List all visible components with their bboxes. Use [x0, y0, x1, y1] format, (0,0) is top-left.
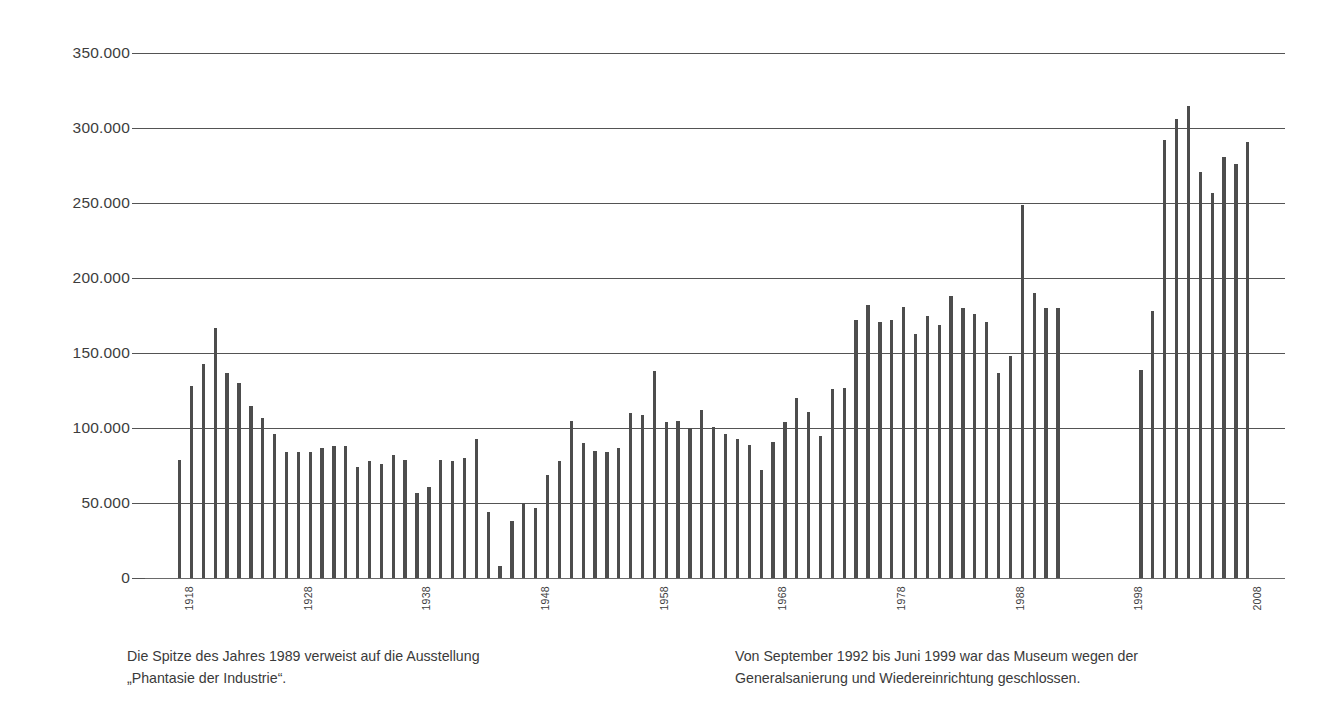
y-tick-label: 350.000	[73, 44, 130, 62]
bar-1942	[463, 458, 466, 578]
bar-1971	[807, 412, 810, 579]
y-tick-mark	[132, 278, 145, 279]
gridline-150000	[145, 353, 1285, 354]
bar-1926	[273, 434, 276, 578]
gridline-350000	[145, 53, 1285, 54]
bar-1955	[617, 448, 620, 579]
bar-1929	[309, 452, 312, 578]
bar-1987	[997, 373, 1000, 579]
bar-1933	[356, 467, 359, 578]
bar-1945	[498, 566, 501, 578]
bar-1973	[831, 389, 834, 578]
bar-1975	[854, 320, 857, 578]
x-tick-label-1968: 1968	[776, 586, 788, 611]
y-tick-label: 100.000	[73, 419, 130, 437]
bar-2002	[1175, 119, 1178, 578]
bar-1934	[368, 461, 371, 578]
gridline-300000	[145, 128, 1285, 129]
y-tick-label: 300.000	[73, 119, 130, 137]
bar-1951	[570, 421, 573, 579]
x-tick-label-1958: 1958	[658, 586, 670, 611]
bar-1940	[439, 460, 442, 579]
bar-2006	[1222, 157, 1225, 579]
bar-1922	[225, 373, 228, 579]
bar-1953	[593, 451, 596, 579]
bar-1960	[676, 421, 679, 579]
bar-1983	[949, 296, 952, 578]
bar-1982	[938, 325, 941, 579]
bar-1988	[1009, 356, 1012, 578]
bar-1958	[653, 371, 656, 578]
bar-1969	[783, 422, 786, 578]
bar-2003	[1187, 106, 1190, 579]
bar-2004	[1199, 172, 1202, 579]
bar-1950	[558, 461, 561, 578]
y-tick-label: 0	[121, 569, 130, 587]
bar-1977	[878, 322, 881, 579]
bar-1935	[380, 464, 383, 578]
bar-1918	[178, 460, 181, 579]
bar-1964	[724, 434, 727, 578]
bar-1947	[522, 503, 525, 578]
bar-1978	[890, 320, 893, 578]
bar-1966	[748, 445, 751, 579]
caption-right: Von September 1992 bis Juni 1999 war das…	[735, 645, 1315, 689]
bar-1962	[700, 410, 703, 578]
y-axis: 050.000100.000150.000200.000250.000300.0…	[45, 53, 130, 578]
bar-1920	[202, 364, 205, 579]
y-tick-mark	[132, 578, 145, 579]
bar-1952	[582, 443, 585, 578]
caption-left: Die Spitze des Jahres 1989 verweist auf …	[127, 645, 667, 689]
bar-1941	[451, 461, 454, 578]
bar-1970	[795, 398, 798, 578]
bar-1974	[843, 388, 846, 579]
bar-2005	[1211, 193, 1214, 579]
bar-1948	[534, 508, 537, 579]
bar-1959	[665, 422, 668, 578]
bar-1943	[475, 439, 478, 579]
bar-1949	[546, 475, 549, 579]
y-tick-label: 50.000	[81, 494, 130, 512]
bar-2007	[1234, 164, 1237, 578]
gridline-200000	[145, 278, 1285, 279]
bar-1981	[926, 316, 929, 579]
bar-1985	[973, 314, 976, 578]
bar-1925	[261, 418, 264, 579]
bar-1931	[332, 446, 335, 578]
gridline-250000	[145, 203, 1285, 204]
x-tick-label-1948: 1948	[539, 586, 551, 611]
bar-2000	[1151, 311, 1154, 578]
x-tick-label-1988: 1988	[1014, 586, 1026, 611]
y-tick-mark	[132, 128, 145, 129]
bar-1927	[285, 452, 288, 578]
bar-1967	[760, 470, 763, 578]
bar-1956	[629, 413, 632, 578]
bar-1991	[1044, 308, 1047, 578]
bar-1928	[297, 452, 300, 578]
y-tick-label: 250.000	[73, 194, 130, 212]
bar-1972	[819, 436, 822, 579]
bar-1980	[914, 334, 917, 579]
bar-1924	[249, 406, 252, 579]
visitor-statistics-chart: 050.000100.000150.000200.000250.000300.0…	[0, 0, 1343, 717]
bar-1976	[866, 305, 869, 578]
bar-1944	[487, 512, 490, 578]
bar-1989	[1021, 205, 1024, 579]
x-tick-label-1998: 1998	[1132, 586, 1144, 611]
plot-area	[145, 53, 1285, 578]
x-tick-label-1928: 1928	[302, 586, 314, 611]
y-tick-mark	[132, 53, 145, 54]
bar-1921	[214, 328, 217, 579]
bar-1919	[190, 386, 193, 578]
bar-1992	[1056, 308, 1059, 578]
bar-1957	[641, 415, 644, 579]
bar-1984	[961, 308, 964, 578]
x-tick-label-1938: 1938	[420, 586, 432, 611]
bar-1961	[688, 428, 691, 578]
y-tick-mark	[132, 428, 145, 429]
bar-1939	[427, 487, 430, 579]
bar-1946	[510, 521, 513, 578]
bar-1999	[1139, 370, 1142, 579]
bar-1954	[605, 452, 608, 578]
x-tick-label-1918: 1918	[183, 586, 195, 611]
